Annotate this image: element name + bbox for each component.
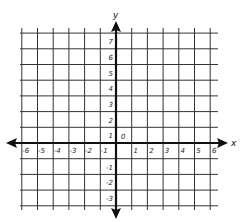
x-tick-label: -5 [38,147,46,155]
x-tick-label: -1 [101,147,108,155]
x-tick-label: 1 [133,147,137,155]
x-tick-label: 3 [165,147,169,155]
y-tick-label: 1 [109,132,113,140]
coordinate-plane: xy0-6-5-4-3-2-11234567654321-1-2-3 [0,0,244,222]
origin-label: 0 [121,133,126,141]
y-tick-label: -3 [106,195,113,203]
y-tick-label: 2 [109,117,114,125]
y-axis-label: y [112,10,119,20]
y-tick-label: 4 [109,85,113,93]
y-tick-label: 5 [109,70,114,78]
y-tick-label: 6 [109,54,114,62]
x-tick-label: -6 [22,147,30,155]
grid-lines [20,28,218,210]
y-tick-label: -2 [106,179,114,187]
y-tick-label: -1 [106,164,113,172]
x-tick-label: 2 [149,147,154,155]
x-tick-label: -3 [69,147,76,155]
y-tick-label: 7 [109,38,114,46]
x-tick-label: 5 [196,147,201,155]
x-tick-label: 6 [212,147,217,155]
x-axis-label: x [230,138,237,148]
x-tick-label: -2 [85,147,93,155]
x-tick-label: 4 [181,147,185,155]
x-tick-label: -4 [54,147,61,155]
y-tick-label: 3 [109,101,113,109]
